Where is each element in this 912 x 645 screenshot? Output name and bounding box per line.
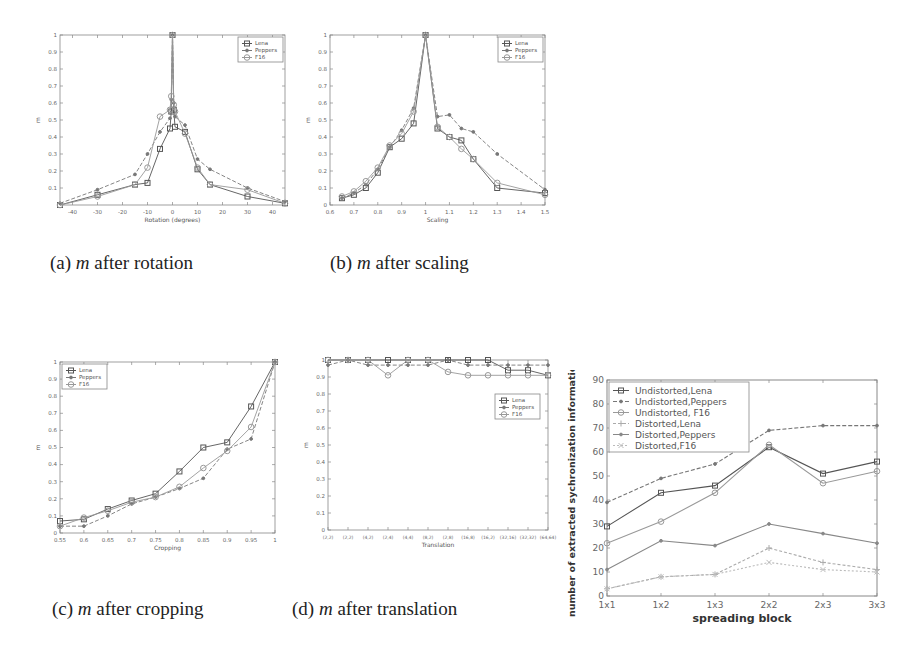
legend: Undistorted,LenaUndistorted,PeppersUndis…: [609, 382, 749, 452]
svg-text:60: 60: [593, 447, 605, 457]
svg-text:1: 1: [322, 357, 326, 363]
svg-text:Cropping: Cropping: [154, 544, 181, 552]
caption-translation: (d) m after translation: [292, 598, 457, 620]
svg-text:Undistorted,Peppers: Undistorted,Peppers: [635, 397, 727, 407]
svg-text:0.4: 0.4: [48, 461, 57, 467]
svg-text:1.4: 1.4: [517, 209, 526, 215]
caption-text: after translation: [337, 598, 457, 619]
svg-text:m: m: [304, 117, 311, 123]
svg-text:Rotation (degrees): Rotation (degrees): [145, 216, 201, 224]
svg-text:1.5: 1.5: [541, 209, 550, 215]
svg-text:0.9: 0.9: [397, 209, 406, 215]
legend: LenaPeppersF16: [238, 37, 283, 62]
svg-text:0.9: 0.9: [318, 49, 327, 55]
svg-text:0.1: 0.1: [48, 185, 57, 191]
svg-text:1: 1: [54, 359, 58, 365]
svg-text:Distorted,Lena: Distorted,Lena: [635, 419, 701, 429]
scaling-chart: 00.10.20.30.40.50.60.70.80.910.60.70.80.…: [290, 20, 560, 235]
svg-text:-40: -40: [68, 209, 77, 215]
caption-label: (b): [330, 252, 352, 273]
svg-text:0.7: 0.7: [48, 83, 57, 89]
caption-label: (a): [50, 252, 71, 273]
caption-label: (c): [52, 598, 73, 619]
translation-plot-svg: 00.10.20.30.40.50.60.70.80.91(2,2)(2,2)(…: [290, 345, 560, 560]
svg-text:0.85: 0.85: [197, 537, 210, 543]
svg-text:2x2: 2x2: [761, 600, 778, 610]
svg-text:Lena: Lena: [79, 367, 92, 373]
caption-text: after rotation: [94, 252, 193, 273]
caption-label: (d): [292, 598, 314, 619]
caption-var: m: [357, 252, 371, 273]
svg-text:0.5: 0.5: [48, 444, 57, 450]
legend: LenaPeppersF16: [498, 37, 543, 62]
caption-var: m: [78, 598, 92, 619]
svg-text:0.4: 0.4: [316, 459, 325, 465]
caption-var: m: [76, 252, 90, 273]
svg-text:0.1: 0.1: [48, 513, 57, 519]
svg-text:0.2: 0.2: [316, 493, 325, 499]
svg-text:0.9: 0.9: [48, 376, 57, 382]
svg-text:1: 1: [324, 32, 328, 38]
svg-text:F16: F16: [515, 54, 526, 60]
svg-text:spreading block: spreading block: [693, 612, 793, 625]
svg-text:1x3: 1x3: [707, 600, 724, 610]
svg-text:0.8: 0.8: [48, 393, 57, 399]
svg-text:Peppers: Peppers: [515, 47, 537, 54]
svg-text:Translation: Translation: [421, 541, 455, 548]
svg-text:-30: -30: [93, 209, 102, 215]
svg-text:(8,2): (8,2): [423, 535, 434, 540]
svg-text:0: 0: [171, 209, 175, 215]
cropping-chart: 00.10.20.30.40.50.60.70.80.910.550.60.65…: [20, 350, 290, 565]
svg-text:0.7: 0.7: [318, 83, 327, 89]
legend: LenaPeppersF16: [495, 394, 540, 419]
svg-text:70: 70: [593, 423, 605, 433]
svg-text:0.1: 0.1: [318, 185, 327, 191]
svg-text:3x3: 3x3: [869, 600, 886, 610]
svg-text:0.55: 0.55: [54, 537, 67, 543]
svg-text:1: 1: [54, 32, 58, 38]
svg-text:0.2: 0.2: [48, 496, 57, 502]
svg-text:(32,16): (32,16): [500, 535, 517, 540]
svg-text:0.5: 0.5: [316, 442, 325, 448]
svg-text:0.7: 0.7: [127, 537, 136, 543]
svg-text:m: m: [34, 117, 41, 123]
svg-text:0.5: 0.5: [318, 117, 327, 123]
svg-text:m: m: [302, 442, 309, 448]
svg-text:40: 40: [593, 495, 605, 505]
svg-text:30: 30: [244, 209, 251, 215]
svg-text:0.4: 0.4: [318, 134, 327, 140]
svg-text:F16: F16: [512, 411, 523, 417]
svg-text:1x1: 1x1: [599, 600, 616, 610]
svg-text:(16,2): (16,2): [481, 535, 495, 540]
svg-text:2x3: 2x3: [815, 600, 832, 610]
svg-text:F16: F16: [79, 381, 90, 387]
svg-text:1.2: 1.2: [469, 209, 478, 215]
caption-text: after cropping: [96, 598, 203, 619]
svg-text:0.9: 0.9: [316, 374, 325, 380]
svg-text:10: 10: [593, 567, 605, 577]
svg-text:(64,64): (64,64): [540, 535, 557, 540]
svg-text:0.65: 0.65: [102, 537, 115, 543]
svg-text:80: 80: [593, 399, 605, 409]
svg-text:1.3: 1.3: [493, 209, 502, 215]
svg-text:Lena: Lena: [255, 40, 268, 46]
svg-text:0.7: 0.7: [316, 408, 325, 414]
svg-text:50: 50: [593, 471, 605, 481]
svg-text:Peppers: Peppers: [79, 374, 101, 381]
svg-text:0.9: 0.9: [223, 537, 232, 543]
svg-text:0.1: 0.1: [316, 510, 325, 516]
svg-text:0.6: 0.6: [318, 100, 327, 106]
rotation-chart: 0.10.20.30.40.50.60.70.80.91-40-30-20-10…: [20, 20, 290, 235]
svg-text:0.2: 0.2: [48, 168, 57, 174]
caption-text: after scaling: [375, 252, 468, 273]
svg-text:0.3: 0.3: [48, 151, 57, 157]
spreading-plot-svg: 01020304050607080901x11x21x32x22x33x3spr…: [565, 370, 910, 645]
svg-text:0: 0: [324, 202, 328, 208]
caption-cropping: (c) m after cropping: [52, 598, 203, 620]
svg-text:0.5: 0.5: [48, 117, 57, 123]
rotation-plot-svg: 0.10.20.30.40.50.60.70.80.91-40-30-20-10…: [20, 20, 290, 235]
svg-text:(4,4): (4,4): [403, 535, 414, 540]
caption-scaling: (b) m after scaling: [330, 252, 469, 274]
svg-text:0.8: 0.8: [318, 66, 327, 72]
svg-text:20: 20: [219, 209, 226, 215]
